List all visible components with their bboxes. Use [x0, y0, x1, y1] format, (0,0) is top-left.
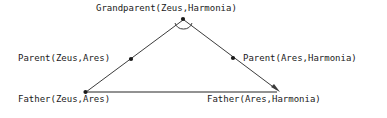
label-parent-left: Parent(Zeus,Ares) [18, 53, 110, 64]
edge-left-midpoint-dot-icon [129, 57, 133, 61]
diagram-canvas: Grandparent(Zeus,Harmonia) Parent(Zeus,A… [0, 0, 387, 118]
label-grandparent: Grandparent(Zeus,Harmonia) [96, 3, 237, 14]
edge-right-arrowhead-icon [271, 84, 280, 92]
label-parent-right: Parent(Ares,Harmonia) [243, 53, 357, 64]
apex-vertex-dot-icon [181, 17, 185, 21]
label-father-left: Father(Zeus,Ares) [18, 94, 110, 105]
label-father-right: Father(Ares,Harmonia) [207, 94, 321, 105]
edge-right-midpoint-dot-icon [231, 56, 235, 60]
